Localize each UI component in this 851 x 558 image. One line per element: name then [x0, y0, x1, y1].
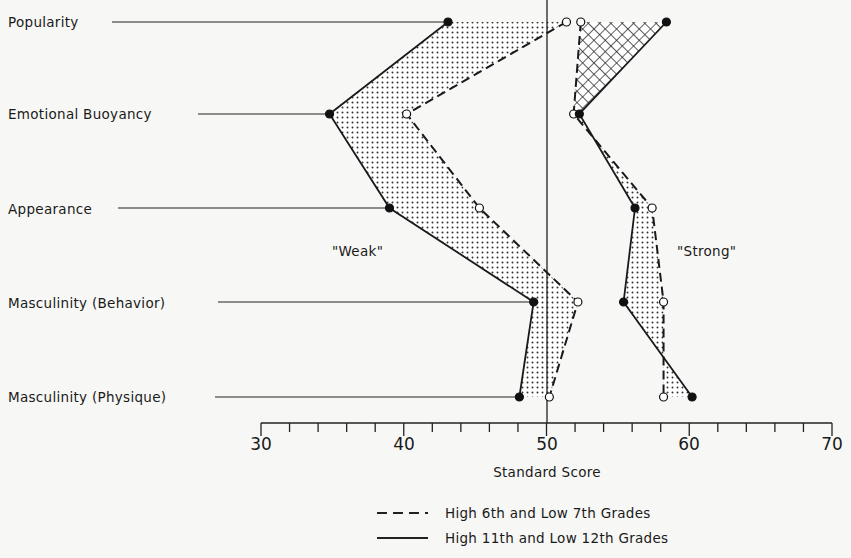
filled-circle-marker [530, 298, 538, 306]
category-label: Emotional Buoyancy [8, 106, 152, 122]
open-circle-marker [574, 298, 582, 306]
open-circle-marker [577, 18, 585, 26]
category-label: Appearance [8, 201, 92, 217]
strong-annotation: "Strong" [677, 243, 736, 259]
category-label: Masculinity (Behavior) [8, 295, 165, 311]
filled-circle-marker [575, 110, 583, 118]
filled-circle-marker [444, 18, 452, 26]
profile-chart: Popularity Emotional Buoyancy Appearance… [0, 0, 851, 558]
filled-circle-marker [688, 393, 696, 401]
x-tick-label: 50 [536, 434, 558, 454]
x-tick-label: 70 [821, 434, 843, 454]
open-circle-marker [562, 18, 570, 26]
category-label: Popularity [8, 14, 79, 30]
weak-annotation: "Weak" [332, 243, 383, 259]
open-circle-marker [660, 298, 668, 306]
open-circle-marker [545, 393, 553, 401]
category-label: Masculinity (Physique) [8, 389, 166, 405]
filled-circle-marker [385, 204, 393, 212]
open-circle-marker [648, 204, 656, 212]
open-circle-marker [660, 393, 668, 401]
legend-dashed-label: High 6th and Low 7th Grades [445, 505, 651, 521]
filled-circle-marker [620, 298, 628, 306]
filled-circle-marker [515, 393, 523, 401]
open-circle-marker [403, 110, 411, 118]
legend-solid-label: High 11th and Low 12th Grades [445, 530, 668, 546]
x-tick-label: 40 [393, 434, 415, 454]
x-tick-label: 60 [678, 434, 700, 454]
x-axis-title: Standard Score [493, 464, 601, 480]
open-circle-marker [475, 204, 483, 212]
x-tick-label: 30 [250, 434, 272, 454]
filled-circle-marker [326, 110, 334, 118]
filled-circle-marker [631, 204, 639, 212]
filled-circle-marker [662, 18, 670, 26]
